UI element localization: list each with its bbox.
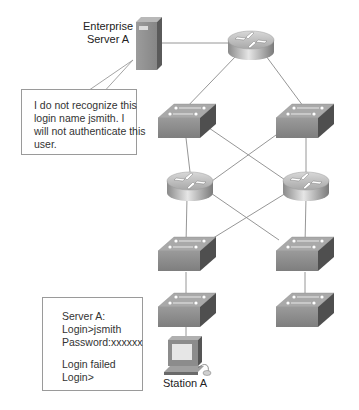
server-label-line1: Enterprise — [78, 20, 138, 33]
terminal-blank-line — [62, 349, 142, 358]
server-label-line2: Server A — [78, 33, 138, 46]
left-switch-1-icon[interactable] — [158, 104, 216, 138]
callout-line: I do not recognize this — [34, 99, 136, 112]
terminal-session: Server A: Login>jsmith Password:xxxxxx L… — [42, 297, 143, 391]
station-label: Station A — [154, 377, 216, 390]
terminal-line: Login> — [62, 371, 142, 384]
server-tower-icon[interactable] — [136, 17, 162, 70]
callout-line: user. — [34, 138, 136, 151]
workstation-icon[interactable] — [164, 336, 211, 376]
link-left-switch-1-left-router — [186, 138, 190, 172]
callout-pointer — [90, 60, 133, 90]
link-right-switch-1-left-router — [205, 135, 276, 186]
link-top-router-left-switch-1 — [184, 56, 236, 110]
right-router-icon[interactable] — [283, 172, 329, 201]
right-switch-1-icon[interactable] — [276, 104, 334, 138]
terminal-line: Server A: — [62, 310, 142, 323]
terminal-line: Login failed — [62, 358, 142, 371]
server-callout: I do not recognize this login name jsmit… — [21, 89, 137, 155]
left-switch-2-icon[interactable] — [158, 237, 216, 271]
terminal-line: Login>jsmith — [62, 323, 142, 336]
terminal-line: Password:xxxxxx — [62, 336, 142, 349]
server-label: Enterprise Server A — [78, 20, 138, 46]
right-switch-3-icon[interactable] — [276, 293, 334, 327]
link-right-router-left-switch-2 — [210, 190, 291, 240]
callout-line: will not authenticate this — [34, 125, 136, 138]
top-router-icon[interactable] — [228, 31, 274, 60]
callout-line: login name jsmith. I — [34, 112, 136, 125]
link-top-router-right-switch-1 — [266, 56, 306, 110]
link-left-router-right-switch-2 — [205, 189, 279, 240]
left-switch-3-icon[interactable] — [158, 293, 216, 327]
right-switch-2-icon[interactable] — [276, 237, 334, 271]
left-router-icon[interactable] — [167, 172, 213, 201]
